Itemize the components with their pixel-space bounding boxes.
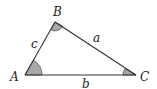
vertex-label-a: A — [9, 70, 19, 84]
side-label-c: c — [31, 37, 38, 51]
side-a — [55, 22, 136, 75]
vertex-label-b: B — [52, 5, 62, 19]
triangle-diagram: B A C c a b — [0, 0, 157, 89]
side-label-a: a — [93, 31, 100, 45]
angle-mark-a — [25, 60, 42, 75]
side-label-b: b — [82, 77, 90, 89]
vertex-label-c: C — [140, 70, 149, 84]
